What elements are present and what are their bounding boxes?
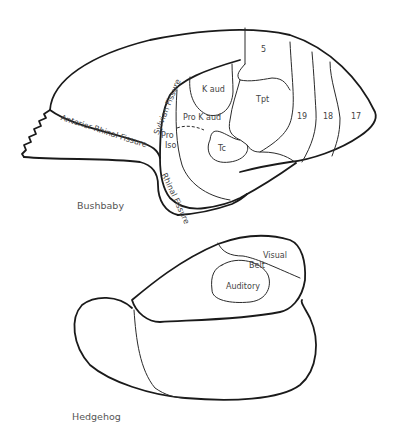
region-label-belt: Belt [249, 262, 265, 270]
region-label-auditory: Auditory [226, 283, 260, 291]
region-label-proiso-top: Pro [161, 132, 174, 140]
region-label-area-17: 17 [351, 113, 361, 121]
region-label-tc: Tc [218, 145, 226, 153]
region-label-proiso-bottom: Iso [165, 142, 176, 150]
region-label-area-18: 18 [323, 113, 333, 121]
region-label-area-5: 5 [261, 46, 266, 54]
region-label-area-19: 19 [297, 113, 307, 121]
hedgehog-brain-outline [0, 0, 394, 435]
caption-bushbaby: Bushbaby [77, 200, 124, 211]
region-label-prokaud: Pro K aud [183, 114, 221, 122]
region-label-kaud: K aud [202, 86, 225, 94]
caption-hedgehog: Hedgehog [72, 411, 121, 422]
region-label-visual: Visual [263, 252, 287, 260]
brain-comparison-figure: 5 K aud Tpt Pro K aud Pro Iso Tc 19 18 1… [0, 0, 394, 435]
region-label-tpt: Tpt [256, 96, 269, 104]
